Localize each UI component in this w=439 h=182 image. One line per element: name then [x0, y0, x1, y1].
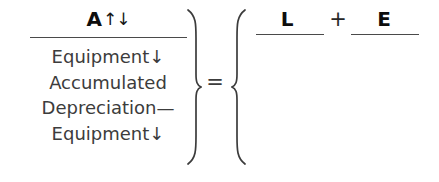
denominator: Equipment↓ Accumulated Depreciation— Equ… [28, 44, 188, 146]
brace-close-icon [186, 8, 202, 166]
fraction-bar [30, 37, 187, 38]
denominator-line-3: Depreciation— [28, 95, 188, 121]
brace-open-icon [231, 8, 247, 166]
equals-sign: = [203, 72, 227, 93]
assets-term: A [87, 9, 102, 29]
accounting-equation-figure: A ↑↓ Equipment↓ Accumulated Depreciation… [0, 0, 439, 182]
numerator: A ↑↓ [28, 4, 188, 34]
liabilities-rule [256, 34, 324, 35]
liabilities-term: L [281, 9, 294, 29]
liabilities-term-wrap: L [252, 4, 322, 34]
right-side-terms: L + E [252, 4, 424, 40]
left-side-fraction: A ↑↓ Equipment↓ Accumulated Depreciation… [28, 4, 188, 172]
equity-rule [351, 34, 419, 35]
denominator-line-2: Accumulated [28, 70, 188, 96]
equity-term: E [377, 9, 391, 29]
plus-sign: + [324, 4, 352, 34]
up-down-arrows-icon: ↑↓ [103, 11, 130, 28]
denominator-line-1: Equipment↓ [28, 44, 188, 70]
equity-term-wrap: E [350, 4, 418, 34]
denominator-line-4: Equipment↓ [28, 121, 188, 147]
